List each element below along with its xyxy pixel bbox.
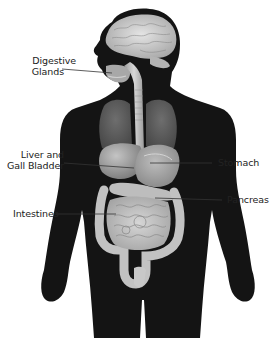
label-liver-gall-bladder: Liver and Gall Bladder bbox=[4, 150, 64, 171]
digestive-system-diagram: Digestive Glands Liver and Gall Bladder … bbox=[0, 0, 278, 349]
body-illustration bbox=[0, 0, 278, 349]
stomach bbox=[135, 145, 179, 187]
label-line: Stomach bbox=[218, 158, 259, 169]
label-line: Liver and bbox=[4, 150, 64, 161]
liver bbox=[99, 143, 142, 179]
label-line: Pancreas bbox=[227, 195, 269, 206]
label-line: Gall Bladder bbox=[4, 161, 64, 172]
left-lung bbox=[99, 100, 132, 150]
label-intestines: Intestines bbox=[13, 209, 59, 220]
label-digestive-glands: Digestive Glands bbox=[20, 56, 76, 77]
label-line: Glands bbox=[20, 67, 76, 78]
right-lung bbox=[146, 100, 177, 150]
label-line: Digestive bbox=[20, 56, 76, 67]
label-pancreas: Pancreas bbox=[227, 195, 269, 206]
label-stomach: Stomach bbox=[218, 158, 259, 169]
small-intestine bbox=[107, 196, 171, 250]
label-line: Intestines bbox=[13, 209, 59, 220]
